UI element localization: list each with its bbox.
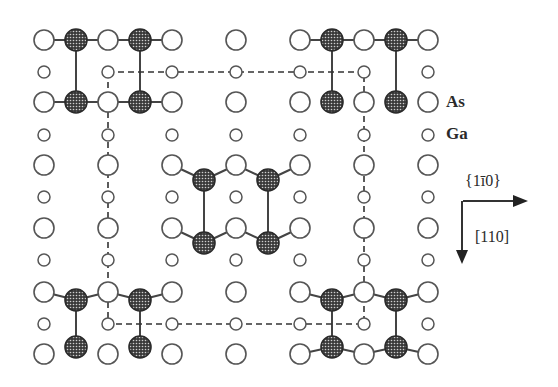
as-dimer-atom xyxy=(385,289,407,311)
gaas-surface-reconstruction-diagram xyxy=(0,0,558,387)
as-dimer-atom xyxy=(65,336,87,358)
as-dimer-atom xyxy=(129,336,151,358)
as-atom xyxy=(290,344,310,364)
as-dimer-atom xyxy=(321,91,343,113)
as-atom xyxy=(418,282,438,302)
ga-atom xyxy=(294,129,306,141)
as-atom xyxy=(34,344,54,364)
ga-atom xyxy=(166,191,178,203)
as-dimer-atom xyxy=(129,289,151,311)
horizontal-arrowhead-icon xyxy=(513,195,528,207)
as-atom xyxy=(98,92,118,112)
as-dimer-atom xyxy=(321,336,343,358)
ga-atom xyxy=(166,318,178,330)
as-atom xyxy=(98,344,118,364)
as-atom xyxy=(418,155,438,175)
ga-atom xyxy=(422,318,434,330)
as-atom xyxy=(34,92,54,112)
legend-as-label: As xyxy=(446,92,465,112)
ga-atom xyxy=(294,191,306,203)
as-dimer-atom xyxy=(385,91,407,113)
ga-atom xyxy=(422,129,434,141)
as-dimer-atom xyxy=(257,169,279,191)
as-atom xyxy=(290,282,310,302)
direction-label-110: [110] xyxy=(475,228,509,246)
ga-atom xyxy=(422,254,434,266)
as-dimer-atom xyxy=(129,29,151,51)
ga-atom xyxy=(358,66,370,78)
as-atom xyxy=(226,218,246,238)
ga-atom xyxy=(102,66,114,78)
as-atom xyxy=(34,218,54,238)
as-atom xyxy=(34,30,54,50)
as-atom xyxy=(354,218,374,238)
ga-atom xyxy=(230,254,242,266)
as-atom xyxy=(418,344,438,364)
vertical-arrowhead-icon xyxy=(456,250,468,264)
as-dimer-atom xyxy=(65,91,87,113)
as-atom xyxy=(162,92,182,112)
as-dimer-atom xyxy=(65,289,87,311)
as-atom xyxy=(162,218,182,238)
ga-atom xyxy=(102,129,114,141)
as-atom xyxy=(162,282,182,302)
as-dimer-atom xyxy=(193,232,215,254)
ga-atom xyxy=(166,129,178,141)
as-dimer-atom xyxy=(65,29,87,51)
ga-atom xyxy=(422,191,434,203)
as-atom xyxy=(226,344,246,364)
as-dimer-atom xyxy=(321,29,343,51)
ga-atom xyxy=(358,318,370,330)
as-atom xyxy=(290,92,310,112)
ga-atom xyxy=(230,191,242,203)
ga-atom xyxy=(230,66,242,78)
ga-atom xyxy=(358,129,370,141)
as-atom xyxy=(34,155,54,175)
as-atom xyxy=(354,344,374,364)
ga-atom xyxy=(166,254,178,266)
as-atom xyxy=(290,155,310,175)
as-dimer-atom xyxy=(385,29,407,51)
as-atom xyxy=(290,30,310,50)
as-atom xyxy=(226,282,246,302)
ga-atom xyxy=(102,191,114,203)
direction-label-1-10: {1ī0} xyxy=(465,172,501,190)
ga-atom xyxy=(166,66,178,78)
as-atom xyxy=(418,218,438,238)
ga-atom xyxy=(358,254,370,266)
as-atom xyxy=(226,92,246,112)
as-atom xyxy=(162,155,182,175)
as-atom xyxy=(226,30,246,50)
as-atom xyxy=(290,218,310,238)
as-dimer-atom xyxy=(193,169,215,191)
as-atom xyxy=(98,218,118,238)
as-dimer-atom xyxy=(321,289,343,311)
ga-atom xyxy=(358,191,370,203)
ga-atom xyxy=(230,129,242,141)
as-atom xyxy=(418,30,438,50)
as-dimer-atom xyxy=(385,336,407,358)
as-atom xyxy=(34,282,54,302)
as-atom xyxy=(354,155,374,175)
ga-atom xyxy=(38,318,50,330)
ga-atom xyxy=(38,191,50,203)
as-atom xyxy=(98,282,118,302)
as-dimer-atom xyxy=(257,232,279,254)
ga-atom xyxy=(230,318,242,330)
ga-atom xyxy=(38,254,50,266)
as-atom xyxy=(162,344,182,364)
ga-atom xyxy=(422,66,434,78)
as-atom xyxy=(226,155,246,175)
as-atom xyxy=(162,30,182,50)
ga-atom xyxy=(294,318,306,330)
as-atom xyxy=(354,30,374,50)
ga-atom xyxy=(38,129,50,141)
as-atom xyxy=(98,30,118,50)
ga-atom xyxy=(294,66,306,78)
as-dimer-atom xyxy=(129,91,151,113)
as-atom xyxy=(418,92,438,112)
ga-atom xyxy=(102,254,114,266)
as-atom xyxy=(354,92,374,112)
legend-ga-label: Ga xyxy=(446,124,468,144)
as-atom xyxy=(98,155,118,175)
